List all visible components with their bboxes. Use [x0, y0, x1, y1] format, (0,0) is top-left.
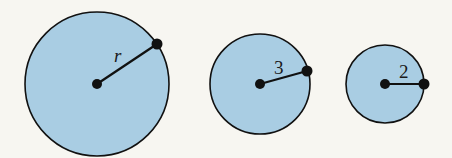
center-point-large — [92, 79, 102, 89]
edge-point-medium — [302, 66, 313, 77]
circles-diagram: r 3 2 — [0, 0, 452, 158]
radius-label-medium: 3 — [274, 57, 284, 78]
circle-small: 2 — [346, 45, 430, 123]
radius-label-small: 2 — [399, 61, 409, 82]
center-point-medium — [255, 79, 265, 89]
edge-point-small — [419, 79, 430, 90]
edge-point-large — [152, 39, 163, 50]
circle-large: r — [25, 12, 169, 156]
center-point-small — [380, 79, 390, 89]
radius-label-large: r — [114, 45, 122, 66]
circle-medium: 3 — [210, 34, 313, 134]
